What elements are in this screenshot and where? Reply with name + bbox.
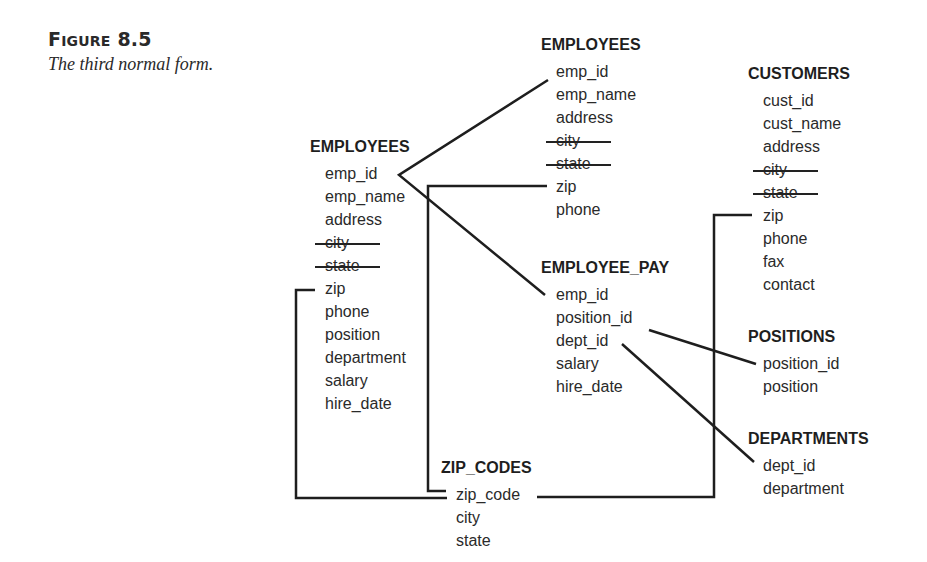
field-city-removed: city [556, 129, 641, 152]
field-zip: zip [556, 175, 641, 198]
table-zip-codes: ZIP_CODES zip_code city state [441, 459, 532, 552]
field-department: department [325, 346, 410, 369]
field-emp-id: emp_id [325, 162, 410, 185]
field-position: position [325, 323, 410, 346]
table-title: EMPLOYEES [310, 138, 410, 156]
field-hire-date: hire_date [325, 392, 410, 415]
field-zip: zip [763, 204, 850, 227]
table-employees-original: EMPLOYEES emp_id emp_name address city s… [310, 138, 410, 415]
field-state-removed: state [763, 181, 850, 204]
field-position-id: position_id [763, 352, 840, 375]
table-title: CUSTOMERS [748, 65, 850, 83]
employees-zip-link [428, 186, 547, 491]
table-title: EMPLOYEES [541, 36, 641, 54]
table-title: DEPARTMENTS [748, 430, 869, 448]
field-phone: phone [556, 198, 641, 221]
field-phone: phone [763, 227, 850, 250]
field-address: address [763, 135, 850, 158]
field-salary: salary [556, 352, 669, 375]
emp-id-link [399, 80, 548, 295]
field-emp-name: emp_name [325, 185, 410, 208]
table-title: ZIP_CODES [441, 459, 532, 477]
field-address: address [556, 106, 641, 129]
field-phone: phone [325, 300, 410, 323]
table-title: POSITIONS [748, 328, 840, 346]
field-address: address [325, 208, 410, 231]
field-city-removed: city [763, 158, 850, 181]
table-title: EMPLOYEE_PAY [541, 259, 669, 277]
field-salary: salary [325, 369, 410, 392]
field-contact: contact [763, 273, 850, 296]
field-zip-code: zip_code [456, 483, 532, 506]
field-city-removed: city [325, 231, 410, 254]
field-emp-id: emp_id [556, 283, 669, 306]
table-employees: EMPLOYEES emp_id emp_name address city s… [541, 36, 641, 221]
field-position: position [763, 375, 840, 398]
field-hire-date: hire_date [556, 375, 669, 398]
field-dept-id: dept_id [763, 454, 869, 477]
table-departments: DEPARTMENTS dept_id department [748, 430, 869, 500]
field-fax: fax [763, 250, 850, 273]
field-emp-name: emp_name [556, 83, 641, 106]
field-state-removed: state [325, 254, 410, 277]
field-state-removed: state [556, 152, 641, 175]
field-emp-id: emp_id [556, 60, 641, 83]
field-zip: zip [325, 277, 410, 300]
table-customers: CUSTOMERS cust_id cust_name address city… [748, 65, 850, 296]
field-cust-id: cust_id [763, 89, 850, 112]
field-city: city [456, 506, 532, 529]
table-employee-pay: EMPLOYEE_PAY emp_id position_id dept_id … [541, 259, 669, 398]
field-state: state [456, 529, 532, 552]
field-dept-id: dept_id [556, 329, 669, 352]
field-department: department [763, 477, 869, 500]
table-positions: POSITIONS position_id position [748, 328, 840, 398]
field-cust-name: cust_name [763, 112, 850, 135]
field-position-id: position_id [556, 306, 669, 329]
